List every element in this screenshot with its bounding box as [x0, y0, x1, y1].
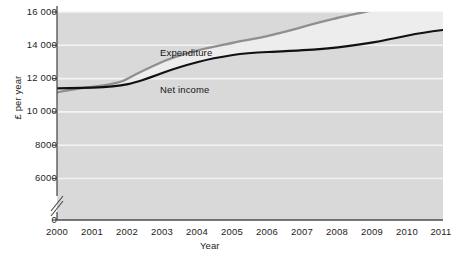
x-tick-2002: 2002 [110, 226, 144, 237]
y-tick-0: 0 [5, 214, 57, 225]
chart-plot: 16 000 14 000 12 000 10 000 8000 6000 0 … [0, 0, 468, 248]
x-tick-2007: 2007 [285, 226, 319, 237]
x-tick-2001: 2001 [75, 226, 109, 237]
y-tick-16000: 16 000 [5, 6, 57, 17]
x-tick-2008: 2008 [320, 226, 354, 237]
x-tick-2011: 2011 [424, 226, 458, 237]
figure: 16 000 14 000 12 000 10 000 8000 6000 0 … [0, 0, 468, 274]
x-tick-2009: 2009 [355, 226, 389, 237]
x-axis-title: Year [200, 240, 220, 251]
y-tick-14000: 14 000 [5, 39, 57, 50]
x-tick-2006: 2006 [250, 226, 284, 237]
x-tick-2003: 2003 [145, 226, 179, 237]
series-label-net-income: Net income [160, 84, 210, 95]
y-tick-labels: 16 000 14 000 12 000 10 000 8000 6000 0 [0, 0, 57, 248]
y-axis-title: £ per year [12, 53, 23, 143]
x-tick-2004: 2004 [180, 226, 214, 237]
x-tick-2010: 2010 [390, 226, 424, 237]
chart-svg [0, 0, 468, 248]
x-tick-2000: 2000 [40, 226, 74, 237]
series-label-expenditure: Expenditure [160, 47, 212, 58]
y-tick-6000: 6000 [5, 172, 57, 183]
x-tick-2005: 2005 [215, 226, 249, 237]
